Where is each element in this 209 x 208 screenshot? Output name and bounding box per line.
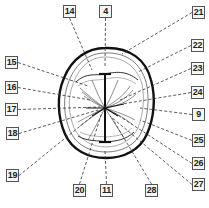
tooth-diagram: 1442115161718192223249252627201128 bbox=[0, 0, 209, 208]
leader-line bbox=[122, 93, 191, 105]
callout-label-21: 21 bbox=[192, 6, 205, 19]
leader-line bbox=[80, 112, 103, 184]
leader-line bbox=[122, 13, 192, 55]
callout-label-19: 19 bbox=[6, 169, 19, 182]
callout-label-24: 24 bbox=[191, 86, 204, 99]
callout-label-23: 23 bbox=[191, 62, 204, 75]
callout-label-4: 4 bbox=[99, 5, 112, 18]
callout-label-20: 20 bbox=[73, 184, 86, 197]
callout-label-9: 9 bbox=[192, 108, 205, 121]
callout-label-16: 16 bbox=[5, 81, 18, 94]
callout-label-14: 14 bbox=[63, 5, 76, 18]
callout-label-11: 11 bbox=[100, 184, 113, 197]
callout-label-15: 15 bbox=[5, 56, 18, 69]
callout-label-26: 26 bbox=[192, 157, 205, 170]
leader-line bbox=[105, 150, 107, 184]
leader-line bbox=[120, 69, 191, 101]
leader-line bbox=[18, 88, 90, 101]
leader-line bbox=[138, 46, 191, 73]
callout-label-25: 25 bbox=[192, 134, 205, 147]
callout-label-22: 22 bbox=[191, 39, 204, 52]
tooth-outline-drawing bbox=[0, 0, 209, 208]
callout-label-18: 18 bbox=[6, 127, 19, 140]
callout-label-27: 27 bbox=[192, 178, 205, 191]
leader-line bbox=[105, 18, 106, 68]
callout-label-28: 28 bbox=[145, 184, 158, 197]
callout-label-17: 17 bbox=[5, 103, 18, 116]
